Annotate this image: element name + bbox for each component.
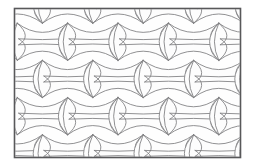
figure-root: Interlocking spool tessellation A rectan… <box>0 0 254 167</box>
tessellation-figure: Interlocking spool tessellation A rectan… <box>0 0 254 167</box>
